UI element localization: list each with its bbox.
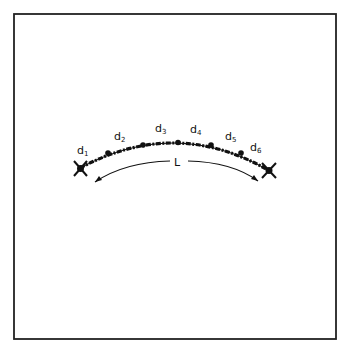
segment-label-d3: d3 [155,122,166,136]
division-point [105,150,111,156]
segment-label-d1: d1 [77,144,88,158]
segment-label-d6: d6 [250,141,262,155]
segment-label-d2: d2 [114,130,125,144]
arrowhead-left-icon [95,176,102,182]
segment-label-d4: d4 [190,123,202,137]
length-arrow-right [188,161,258,181]
diagram-canvas: L d1d2d3d4d5d6 [0,0,357,349]
length-label: L [174,156,181,169]
arrowhead-right-icon [251,175,258,181]
length-arrow-left [95,161,170,182]
division-point [175,140,181,146]
division-point [238,150,244,156]
left-endpoint-cross-icon [74,161,87,176]
segment-label-d5: d5 [225,130,236,144]
right-endpoint-cross-icon [262,163,276,178]
division-point [208,142,214,148]
division-point [140,142,146,148]
frame [14,14,336,339]
